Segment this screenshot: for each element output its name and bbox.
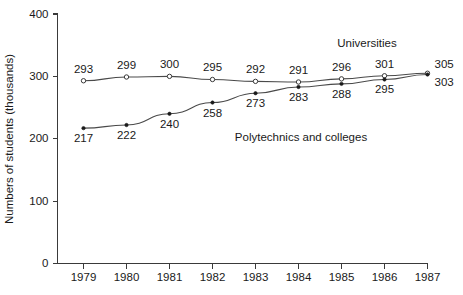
y-tick-label: 0: [42, 257, 48, 269]
x-tick-label: 1985: [329, 271, 355, 283]
data-point-marker: [382, 74, 386, 78]
data-point-marker: [125, 123, 128, 126]
x-tick-label: 1979: [71, 271, 97, 283]
x-axis-ticks: [84, 264, 428, 269]
data-point-label: 296: [332, 61, 351, 73]
x-tick-label: 1984: [286, 271, 312, 283]
data-point-label: 288: [332, 88, 351, 100]
data-point-marker: [340, 82, 343, 85]
data-point-marker: [167, 74, 171, 78]
data-point-marker: [296, 80, 300, 84]
data-point-label: 299: [117, 59, 136, 71]
y-tick-label: 100: [29, 195, 48, 207]
data-point-label: 295: [375, 83, 394, 95]
y-axis-ticks: [53, 14, 58, 264]
data-point-label: 291: [289, 64, 308, 76]
data-point-label: 305: [435, 58, 454, 70]
chart-container: 0100200300400 19791980198119821983198419…: [0, 0, 463, 295]
x-tick-label: 1981: [157, 271, 183, 283]
data-point-label: 273: [246, 97, 265, 109]
data-point-marker: [253, 79, 257, 83]
data-point-label: 240: [160, 118, 179, 130]
data-point-marker: [82, 126, 85, 129]
data-point-label: 292: [246, 63, 265, 75]
series-annotation-polytechnics: Polytechnics and colleges: [235, 131, 368, 143]
data-point-label: 283: [289, 91, 308, 103]
x-axis-tick-labels: 197919801981198219831984198519861987: [71, 271, 441, 283]
data-point-marker: [81, 79, 85, 83]
x-tick-label: 1980: [114, 271, 140, 283]
data-point-marker: [426, 73, 429, 76]
data-point-label: 301: [375, 58, 394, 70]
data-point-marker: [339, 77, 343, 81]
y-tick-label: 400: [29, 8, 48, 20]
x-tick-label: 1983: [243, 271, 269, 283]
line-chart: 0100200300400 19791980198119821983198419…: [0, 0, 463, 295]
data-point-marker: [297, 85, 300, 88]
x-tick-label: 1982: [200, 271, 226, 283]
data-point-label: 295: [203, 61, 222, 73]
y-axis-title: Numbers of students (thousands): [3, 54, 15, 224]
y-axis-tick-labels: 0100200300400: [29, 8, 48, 270]
data-point-label: 300: [160, 58, 179, 70]
data-point-marker: [168, 112, 171, 115]
data-point-marker: [383, 78, 386, 81]
data-point-label: 222: [117, 129, 136, 141]
data-point-label: 303: [435, 76, 454, 88]
y-tick-label: 200: [29, 132, 48, 144]
data-point-label: 293: [74, 63, 93, 75]
x-tick-label: 1987: [415, 271, 441, 283]
data-point-marker: [254, 92, 257, 95]
y-tick-label: 300: [29, 70, 48, 82]
data-point-marker: [210, 77, 214, 81]
data-point-marker: [211, 101, 214, 104]
data-point-label: 258: [203, 107, 222, 119]
x-tick-label: 1986: [372, 271, 398, 283]
series-annotation-universities: Universities: [337, 37, 397, 49]
data-point-marker: [124, 75, 128, 79]
data-point-label: 217: [74, 132, 93, 144]
